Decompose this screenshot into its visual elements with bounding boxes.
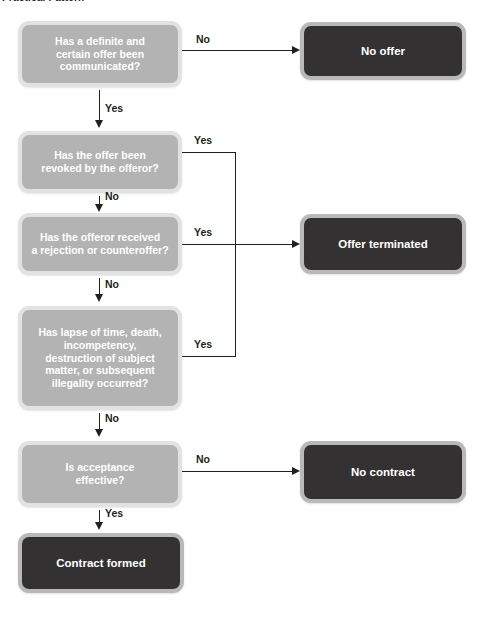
connector-lapse-yes [182,356,236,357]
edge-label-lapse-no: No [105,412,119,424]
decision-offer-revoked-label: Has the offer been revoked by the offero… [22,149,178,175]
connector-rejection-yes-to-offer-terminated [182,244,294,245]
edge-label-rejection-no: No [105,278,119,290]
arrowhead-rejection [95,204,103,212]
terminal-offer-terminated[interactable]: Offer terminated [300,214,466,274]
decision-lapse-death-incompetency-label: Has lapse of time, death, incompetency, … [22,326,178,390]
decision-offer-revoked[interactable]: Has the offer been revoked by the offero… [18,131,182,193]
arrowhead-no-contract [292,467,300,475]
terminal-no-contract[interactable]: No contract [300,441,466,503]
arrowhead-no-offer [292,46,300,54]
edge-label-acceptance-yes: Yes [105,507,123,519]
edge-label-offer-communicated-no: No [196,33,210,45]
arrowhead-offer-revoked [95,120,103,128]
arrowhead-acceptance [95,429,103,437]
decision-acceptance-effective[interactable]: Is acceptance effective? [18,441,182,507]
connector-acceptance-to-no-contract [182,471,294,472]
flowchart-canvas: Practical Pattern Has a definite and cer… [0,0,479,618]
page-title: Practical Pattern [2,0,84,3]
arrowhead-offer-terminated [292,240,300,248]
edge-label-acceptance-no: No [196,453,210,465]
terminal-no-offer-label: No offer [304,44,462,58]
decision-lapse-death-incompetency[interactable]: Has lapse of time, death, incompetency, … [18,306,182,410]
decision-rejection-counteroffer[interactable]: Has the offeror received a rejection or … [18,213,182,275]
edge-label-rejection-yes: Yes [194,226,212,238]
terminal-offer-terminated-label: Offer terminated [304,237,462,251]
decision-rejection-counteroffer-label: Has the offeror received a rejection or … [22,231,178,257]
connector-offer-revoked-yes [182,152,236,153]
connector-offer-communicated-to-no-offer [182,50,294,51]
edge-label-offer-revoked-yes: Yes [194,134,212,146]
edge-label-offer-communicated-yes: Yes [105,102,123,114]
decision-offer-communicated-label: Has a definite and certain offer been co… [22,35,178,73]
arrowhead-contract-formed [95,522,103,530]
decision-offer-communicated[interactable]: Has a definite and certain offer been co… [18,21,182,87]
decision-acceptance-effective-label: Is acceptance effective? [22,461,178,487]
terminal-no-contract-label: No contract [304,465,462,479]
edge-label-offer-revoked-no: No [105,190,119,202]
terminal-contract-formed[interactable]: Contract formed [18,533,184,593]
arrowhead-lapse [95,294,103,302]
terminal-no-offer[interactable]: No offer [300,22,466,80]
terminal-contract-formed-label: Contract formed [22,556,180,570]
edge-label-lapse-yes: Yes [194,338,212,350]
connector-offer-communicated-to-offer-revoked [99,90,100,122]
connector-yes-junction-bus [235,152,236,356]
